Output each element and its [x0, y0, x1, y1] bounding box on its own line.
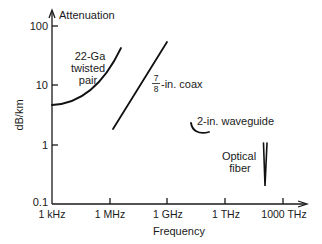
attenuation-chart: 100 10 1 0.1 1 kHz 1 MHz 1 GHz 1 THz 100… [0, 0, 322, 244]
label-optical-fiber: fiber [229, 162, 251, 174]
x-tick-label: 1000 THz [261, 208, 306, 220]
x-tick-label: 1 MHz [95, 208, 125, 220]
y-tick-label: 10 [36, 79, 48, 91]
y-tick-label: 0.1 [33, 196, 48, 208]
axes [49, 10, 307, 207]
svg-text:7: 7 [154, 73, 159, 83]
y-axis-title: Attenuation [59, 9, 115, 21]
label-waveguide: 2-in. waveguide [197, 115, 274, 127]
x-tick-label: 1 kHz [39, 208, 66, 220]
label-optical-fiber: Optical [222, 150, 256, 162]
x-tick-label: 1 GHz [153, 208, 183, 220]
label-coax: 7 8 -in. coax [152, 73, 203, 94]
x-axis-title: Frequency [153, 225, 205, 237]
svg-text:-in. coax: -in. coax [161, 78, 203, 90]
label-twisted-pair: twisted [71, 62, 105, 74]
svg-text:8: 8 [154, 84, 159, 94]
y-tick-label: 1 [42, 139, 48, 151]
y-axis-unit: dB/km [13, 99, 25, 130]
label-twisted-pair: 22-Ga [75, 50, 106, 62]
series-coax [113, 42, 167, 129]
label-twisted-pair: pair [79, 74, 98, 86]
y-tick-label: 100 [30, 20, 48, 32]
x-tick-label: 1 THz [212, 208, 240, 220]
series-optical-fiber [264, 143, 268, 186]
